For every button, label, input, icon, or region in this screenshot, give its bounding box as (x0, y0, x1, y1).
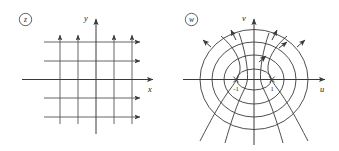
focus-point-negative-one: -1 (233, 77, 238, 92)
flow-arrow-right-outer (297, 40, 305, 47)
focus-point-positive-one-label: 1 (270, 85, 273, 92)
z-plane-label-text: z (23, 15, 27, 24)
flow-arrow-left-outer (203, 40, 211, 47)
z-y-axis-label: y (83, 13, 88, 23)
flow-arrow-left-inner (231, 30, 236, 40)
z-plane-panel: z x y (0, 0, 170, 151)
z-plane-diagram: z x y (0, 0, 170, 151)
z-x-axis-label: x (147, 84, 152, 94)
focus-point-negative-one-label: -1 (233, 85, 238, 92)
conformal-mapping-figure: z x y (0, 0, 339, 151)
w-plane-panel: w (169, 0, 339, 151)
flow-arrow-right-inner (272, 30, 277, 40)
w-plane-label: w (185, 13, 197, 25)
w-v-axis-label: v (242, 13, 246, 23)
w-plane-diagram: w (169, 0, 339, 151)
hyperbola-right-outer (268, 36, 308, 141)
w-plane-label-text: w (189, 15, 194, 24)
w-u-axis-label: u (320, 84, 324, 94)
z-plane-label: z (19, 13, 31, 25)
focus-point-positive-one: 1 (269, 77, 274, 92)
